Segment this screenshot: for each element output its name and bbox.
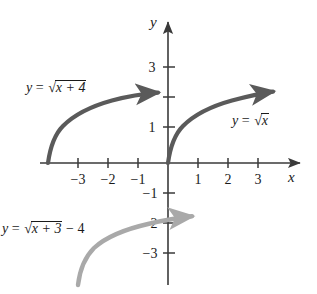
x-axis-label: x (287, 169, 295, 185)
radicand: x + 3 (31, 221, 63, 236)
radical-sign-group: √x (253, 113, 269, 128)
graph-canvas: −3 −2 −1 1 2 3 3 1 −1 −2 −3 x y (0, 0, 317, 294)
x-tick-label-3: 3 (255, 172, 262, 187)
x-tick-label--1: −1 (131, 172, 146, 187)
curve-label-sqrt-x-plus-4: y = √x + 4 (26, 80, 86, 95)
y-tick-label--1: −1 (143, 186, 158, 201)
y-axis-label: y (148, 14, 157, 30)
y-tick-label--3: −3 (143, 246, 158, 261)
curve-label-equals: = (12, 221, 20, 236)
curve-label-lhs: y (2, 221, 8, 236)
curve-label-equals: = (36, 80, 44, 95)
x-tick-label--3: −3 (71, 172, 86, 187)
square-root-functions-figure: −3 −2 −1 1 2 3 3 1 −1 −2 −3 x y y = √x +… (0, 0, 317, 294)
radicand: x (261, 113, 269, 128)
curve-sqrt-x-plus-4 (48, 93, 158, 163)
x-tick-label-2: 2 (225, 172, 232, 187)
curve-label-lhs: y (232, 113, 238, 128)
radical-sign-group: √x + 3 (23, 221, 62, 236)
x-tick-label-1: 1 (195, 172, 202, 187)
curve-label-suffix: − 4 (66, 221, 84, 236)
curve-label-sqrt-x-plus-3-minus-4: y = √x + 3 − 4 (2, 221, 84, 236)
x-tick-label--2: −2 (101, 172, 116, 187)
y-tick-label-1: 1 (149, 120, 156, 135)
curve-label-equals: = (242, 113, 250, 128)
curve-label-sqrt-x: y = √x (232, 113, 269, 128)
radicand: x + 4 (55, 80, 87, 95)
y-tick-label-3: 3 (149, 60, 156, 75)
curve-label-lhs: y (26, 80, 32, 95)
curve-sqrt-x-plus-3-minus-4 (78, 216, 192, 285)
radical-sign-group: √x + 4 (47, 80, 86, 95)
